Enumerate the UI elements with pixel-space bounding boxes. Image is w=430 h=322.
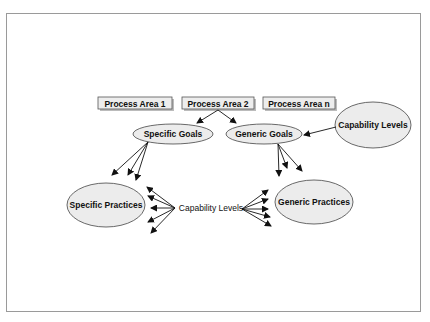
arrow-cl-to-gp-4 [242,209,270,217]
specific-goals-label: Specific Goals [144,129,203,139]
arrow-gg-to-gp-1 [278,144,279,176]
process-area-2-box: Process Area 2 [182,97,256,111]
arrow-cl-to-sp-4 [148,208,175,222]
arrow-gg-to-gp-2 [278,144,287,168]
process-area-n-label: Process Area n [268,99,330,109]
process-area-1-box: Process Area 1 [98,97,174,111]
generic-goals-label: Generic Goals [235,129,293,139]
specific-practices-label: Specific Practices [70,200,143,210]
arrow-sg-to-sp-2 [128,142,148,175]
capability-levels-top-label: Capability Levels [338,120,408,130]
arrow-pa2-to-specific-goals [197,110,218,123]
generic-practices-node: Generic Practices [275,180,353,224]
arrow-cl-to-gp-5 [242,209,271,226]
arrow-caplevels-to-generic-goals [304,127,336,135]
generic-practices-label: Generic Practices [278,197,350,207]
arrow-cl-to-gp-1 [242,190,268,209]
process-area-2-label: Process Area 2 [187,99,248,109]
process-area-1-label: Process Area 1 [104,99,165,109]
capability-levels-top-node: Capability Levels [335,102,411,148]
arrow-cl-to-gp-2 [242,199,268,209]
specific-goals-node: Specific Goals [133,124,213,144]
generic-goals-node: Generic Goals [226,124,302,144]
capability-levels-center-label: Capability Levels [179,203,243,213]
cmmi-diagram: Process Area 1 Process Area 2 Process Ar… [0,0,430,322]
arrow-pa2-to-generic-goals [218,110,236,123]
arrow-cl-to-sp-5 [151,208,175,233]
specific-practices-node: Specific Practices [67,183,145,227]
arrow-gg-to-gp-3 [278,144,302,171]
process-area-n-box: Process Area n [263,97,337,111]
